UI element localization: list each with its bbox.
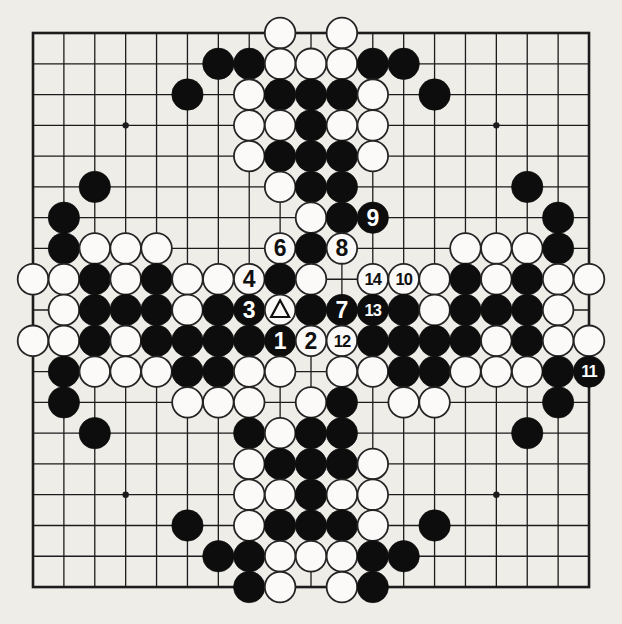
white-stone-circle	[79, 233, 110, 264]
black-stone-circle	[48, 356, 79, 387]
black-stone-circle	[481, 294, 512, 325]
white-stone-circle	[450, 233, 481, 264]
white-stone-circle	[265, 18, 296, 49]
black-stone-circle	[79, 264, 110, 295]
white-stone-circle	[172, 387, 203, 418]
stone-black	[48, 202, 79, 233]
black-stone-circle	[295, 510, 326, 541]
white-stone-circle	[327, 541, 358, 572]
white-stone-circle	[296, 541, 327, 572]
white-stone-circle	[357, 141, 388, 172]
black-stone-circle	[512, 417, 543, 448]
star-point	[493, 122, 499, 128]
black-stone-circle	[79, 171, 110, 202]
stone-black	[388, 48, 419, 79]
black-stone-circle	[295, 140, 326, 171]
stone-black	[295, 140, 326, 171]
black-stone-circle	[450, 294, 481, 325]
black-stone-circle	[172, 510, 203, 541]
move-number-label: 1	[274, 328, 287, 354]
black-stone-circle	[326, 510, 357, 541]
black-stone-circle	[357, 571, 388, 602]
black-stone-circle	[203, 541, 234, 572]
stone-white	[296, 387, 327, 418]
stone-white	[296, 264, 327, 295]
stone-white	[357, 449, 388, 480]
stone-black-move-3: 3	[234, 294, 265, 325]
black-stone-circle	[542, 356, 573, 387]
stone-black	[295, 233, 326, 264]
stone-black	[542, 202, 573, 233]
stone-black	[79, 417, 110, 448]
stone-white	[203, 387, 234, 418]
stone-black	[234, 417, 265, 448]
move-number-label: 8	[336, 235, 349, 261]
stone-black	[264, 79, 295, 110]
white-stone-circle	[110, 356, 141, 387]
move-number-label: 12	[334, 332, 351, 350]
black-stone-circle	[326, 140, 357, 171]
stone-white	[327, 356, 358, 387]
black-stone-circle	[234, 48, 265, 79]
stone-white	[481, 264, 512, 295]
stone-black	[450, 294, 481, 325]
stone-white	[234, 510, 265, 541]
black-stone-circle	[264, 448, 295, 479]
stone-white	[296, 48, 327, 79]
stone-black	[450, 325, 481, 356]
stone-black	[295, 79, 326, 110]
stone-black	[264, 510, 295, 541]
white-stone-circle	[18, 326, 49, 357]
black-stone-circle	[48, 233, 79, 264]
stone-black	[326, 510, 357, 541]
scanned-book-page: 968414103713121211	[0, 0, 622, 624]
black-stone-circle	[79, 417, 110, 448]
stone-white	[512, 356, 543, 387]
white-stone-circle	[574, 264, 605, 295]
black-stone-circle	[295, 294, 326, 325]
black-stone-circle	[512, 264, 543, 295]
white-stone-circle	[265, 48, 296, 79]
white-stone-circle	[574, 326, 605, 357]
white-stone-circle	[234, 356, 265, 387]
stone-black	[542, 356, 573, 387]
white-stone-circle	[512, 233, 543, 264]
white-stone-circle	[265, 418, 296, 449]
move-number-label: 14	[365, 270, 383, 288]
black-stone-circle	[295, 233, 326, 264]
black-stone-circle	[264, 140, 295, 171]
stone-black	[141, 294, 172, 325]
stone-white	[481, 326, 512, 357]
move-number-label: 3	[243, 297, 256, 323]
white-stone-circle	[234, 449, 265, 480]
marked-triangle-stone	[265, 295, 296, 326]
stone-white	[49, 326, 80, 357]
stone-white	[574, 326, 605, 357]
white-stone-circle	[296, 264, 327, 295]
stone-black-move-9: 9	[357, 202, 388, 233]
stone-white	[296, 541, 327, 572]
stone-black	[542, 233, 573, 264]
stone-white	[327, 48, 358, 79]
stone-white	[141, 356, 172, 387]
black-stone-circle	[234, 417, 265, 448]
stone-white-move-4: 4	[234, 264, 265, 295]
stone-white	[388, 387, 419, 418]
stone-white	[79, 233, 110, 264]
stone-white	[18, 326, 49, 357]
move-number-label: 9	[366, 205, 379, 231]
go-board-diagram: 968414103713121211	[0, 0, 622, 624]
stone-white	[265, 172, 296, 203]
stone-black	[512, 325, 543, 356]
stone-black	[295, 448, 326, 479]
stone-white	[172, 295, 203, 326]
stone-white	[327, 572, 358, 603]
black-stone-circle	[141, 264, 172, 295]
stone-white	[49, 295, 80, 326]
white-stone-circle	[357, 479, 388, 510]
white-stone-circle	[481, 326, 512, 357]
black-stone-circle	[203, 325, 234, 356]
white-stone-circle	[327, 110, 358, 141]
black-stone-circle	[357, 48, 388, 79]
stone-black	[234, 325, 265, 356]
